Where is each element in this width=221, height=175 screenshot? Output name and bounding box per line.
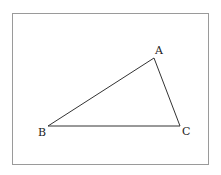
vertex-label-b: B bbox=[38, 126, 46, 139]
vertex-label-c: C bbox=[182, 125, 190, 138]
triangle-diagram: A B C bbox=[0, 0, 221, 175]
vertex-label-a: A bbox=[154, 44, 164, 57]
triangle-abc bbox=[48, 58, 180, 126]
